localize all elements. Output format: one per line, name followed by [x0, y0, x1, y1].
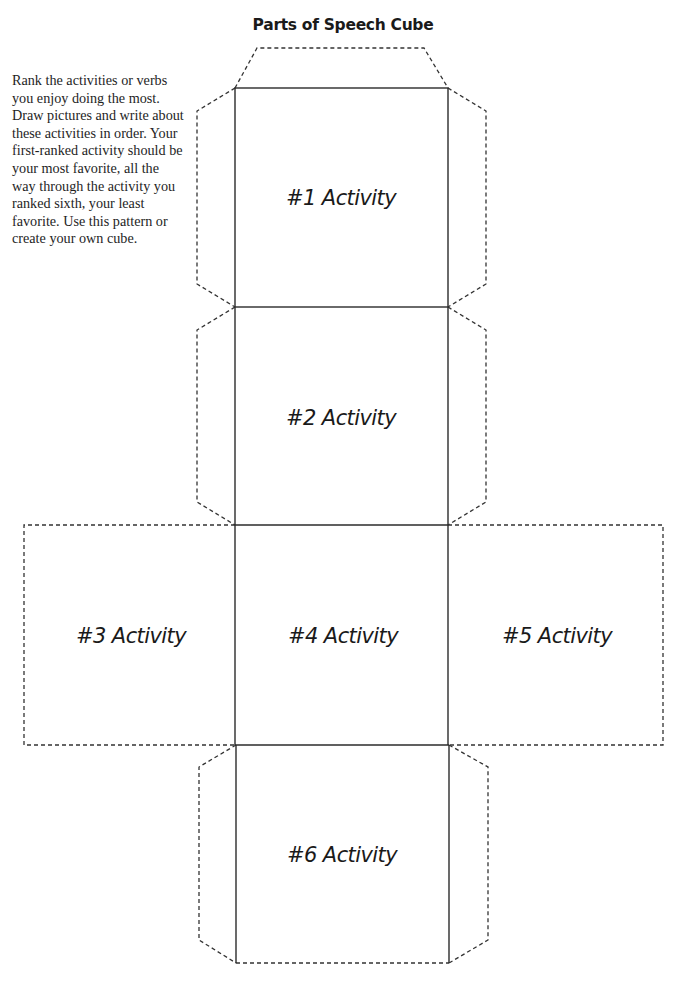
- face2-label: #2 Activity: [286, 406, 396, 430]
- face1-label: #1 Activity: [286, 186, 396, 210]
- flap-face1-left: [197, 88, 235, 307]
- face5-label: #5 Activity: [502, 624, 612, 648]
- flap-face2-left: [197, 307, 235, 525]
- face4-label: #4 Activity: [288, 624, 398, 648]
- face3-label: #3 Activity: [76, 624, 186, 648]
- flap-face6-left: [199, 745, 236, 963]
- cube-net-diagram: [0, 0, 686, 989]
- flap-face6-right: [449, 745, 488, 963]
- flap-top: [235, 48, 448, 88]
- flap-face1-right: [448, 88, 486, 307]
- face6-label: #6 Activity: [287, 843, 397, 867]
- flap-face2-right: [448, 307, 486, 525]
- fold-lines-solid: [235, 88, 449, 963]
